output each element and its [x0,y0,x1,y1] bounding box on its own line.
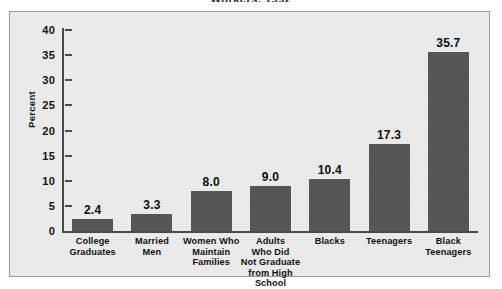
y-tick-mark [65,180,72,182]
bar [131,214,172,231]
bar [250,186,291,231]
x-axis-line [63,231,478,233]
bar-value-label: 9.0 [241,170,301,184]
y-tick-label: 25 [21,99,55,111]
y-tick-mark [65,29,72,31]
y-tick-label: 20 [21,125,55,137]
bar-value-label: 2.4 [63,203,123,217]
x-category-label: Teenagers [356,236,422,247]
x-category-label: AdultsWho DidNot Graduatefrom High Schoo… [238,236,304,289]
bar [191,191,232,231]
x-category-line: Adults [238,236,304,247]
chart-title: Workers, 1992 [0,0,502,2]
bar [72,219,113,231]
y-tick-mark [65,54,72,56]
y-tick-label: 5 [21,200,55,212]
chart-page: Workers, 1992 Percent 0510152025303540 2… [0,0,502,289]
y-tick-mark [65,79,72,81]
x-category-line: Women Who [178,236,244,247]
y-tick-mark [65,104,72,106]
x-category-line: Blacks [297,236,363,247]
x-category-line: Maintain [178,247,244,258]
bar [428,52,469,231]
x-category-line: Graduates [60,247,126,258]
bar-value-label: 35.7 [418,36,478,50]
x-category-line: Men [119,247,185,258]
x-category-line: Teenagers [415,247,481,258]
y-tick-label: 40 [21,24,55,36]
x-category-line: Families [178,257,244,268]
x-category-label: Women WhoMaintainFamilies [178,236,244,268]
x-category-label: CollegeGraduates [60,236,126,257]
x-category-line: Married [119,236,185,247]
y-tick-label: 35 [21,49,55,61]
bar-value-label: 3.3 [122,198,182,212]
y-tick-label: 15 [21,150,55,162]
x-category-line: Not Graduate [238,257,304,268]
y-tick-mark [65,155,72,157]
y-tick-label: 10 [21,175,55,187]
x-category-line: Black [415,236,481,247]
x-category-label: MarriedMen [119,236,185,257]
bar-value-label: 17.3 [359,128,419,142]
x-category-line: Teenagers [356,236,422,247]
y-tick-mark [65,130,72,132]
bar-value-label: 10.4 [300,163,360,177]
x-category-line: from High School [238,268,304,289]
x-category-line: College [60,236,126,247]
x-category-line: Who Did [238,247,304,258]
x-category-label: Blacks [297,236,363,247]
bar-value-label: 8.0 [181,175,241,189]
y-tick-label: 30 [21,74,55,86]
y-tick-label: 0 [21,225,55,237]
x-category-label: BlackTeenagers [415,236,481,257]
bar [309,179,350,231]
bar [369,144,410,231]
